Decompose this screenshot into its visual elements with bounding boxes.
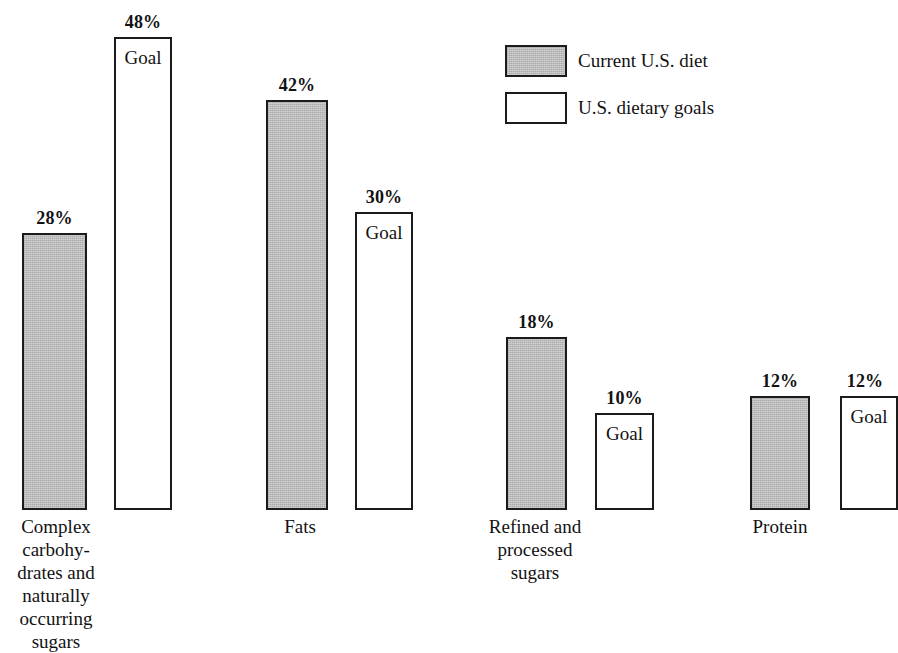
category-label-2: Refined and processed sugars xyxy=(455,515,615,584)
bar-value-label-5: 10% xyxy=(595,389,654,407)
goal-caption-3: Goal xyxy=(355,223,413,242)
legend-swatch-current xyxy=(505,45,567,77)
category-label-1: Fats xyxy=(240,515,360,538)
bar-value-label-6: 12% xyxy=(750,372,810,390)
bar-current-0 xyxy=(22,233,87,510)
legend-label-1: U.S. dietary goals xyxy=(578,96,714,120)
goal-caption-1: Goal xyxy=(114,48,172,67)
bar-value-label-4: 18% xyxy=(506,313,567,331)
legend-label-0: Current U.S. diet xyxy=(578,49,708,73)
bar-goal-3 xyxy=(355,212,413,510)
bar-value-label-3: 30% xyxy=(355,188,413,206)
bar-goal-1 xyxy=(114,37,172,510)
category-label-0: Complex carbohy- drates and naturally oc… xyxy=(0,515,136,653)
goal-caption-7: Goal xyxy=(840,407,898,426)
legend-swatch-goal xyxy=(505,92,567,124)
bar-current-2 xyxy=(266,100,328,510)
goal-caption-5: Goal xyxy=(595,424,654,443)
bar-value-label-2: 42% xyxy=(266,76,328,94)
bar-current-4 xyxy=(506,337,567,510)
bar-current-6 xyxy=(750,396,810,510)
bar-value-label-1: 48% xyxy=(114,13,172,31)
bar-value-label-7: 12% xyxy=(836,372,894,390)
chart-legend: Current U.S. dietU.S. dietary goals xyxy=(505,45,835,125)
bar-value-label-0: 28% xyxy=(22,209,87,227)
legend-item-current-diet: Current U.S. diet xyxy=(505,45,835,77)
category-label-3: Protein xyxy=(720,515,840,538)
legend-item-dietary-goals: U.S. dietary goals xyxy=(505,92,835,124)
